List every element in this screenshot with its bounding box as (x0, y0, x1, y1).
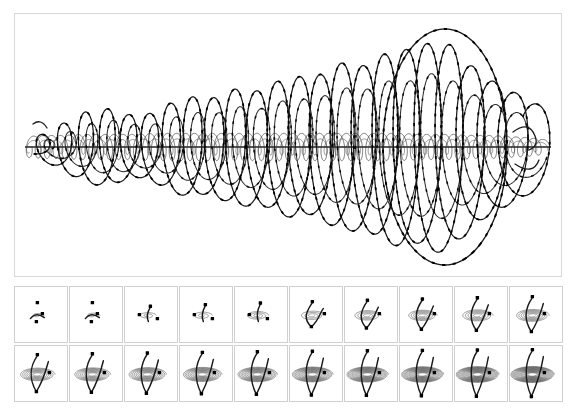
frame-marker (543, 371, 546, 374)
filmstrip-row-2: frame-11frame-12frame-13frame-14frame-15… (14, 345, 563, 402)
filmstrip-frame[interactable]: frame-19 (454, 345, 508, 402)
frame-marker (146, 351, 149, 354)
frame-marker (488, 371, 491, 374)
frame-sparkline (125, 287, 178, 342)
filmstrip-frame[interactable]: frame-17 (344, 345, 398, 402)
frame-sparkline (15, 346, 68, 401)
frame-marker (420, 328, 423, 331)
frame-marker (530, 395, 533, 398)
frame-marker (48, 371, 51, 374)
frame-marker (310, 393, 313, 396)
frame-marker (201, 351, 204, 354)
frame-marker (91, 301, 94, 304)
frame-sparkline (455, 287, 508, 342)
frame-sparkline (235, 346, 288, 401)
frame-sparkline (290, 287, 343, 342)
frame-marker (476, 348, 479, 351)
frame-marker (378, 312, 381, 315)
frame-marker (138, 313, 141, 316)
frame-marker (211, 317, 214, 320)
frame-marker (248, 313, 251, 316)
frame-marker (256, 350, 259, 353)
frame-marker (488, 312, 491, 315)
frame-marker (36, 301, 39, 304)
frame-sparkline (70, 287, 123, 342)
frame-sparkline (510, 287, 563, 342)
frame-sparkline (345, 346, 398, 401)
frame-marker (310, 325, 313, 328)
frame-marker (35, 320, 38, 323)
frame-marker (530, 330, 533, 333)
frame-marker (531, 295, 534, 298)
frame-sparkline (345, 287, 398, 342)
frame-sparkline (235, 287, 288, 342)
frame-marker (145, 392, 148, 395)
frame-marker (365, 394, 368, 397)
frame-marker (158, 371, 161, 374)
frame-marker (476, 296, 479, 299)
frame-marker (35, 390, 38, 393)
filmstrip-frame[interactable]: frame-09 (454, 286, 508, 343)
frame-sparkline (455, 346, 508, 401)
filmstrip-frame[interactable]: frame-12 (69, 345, 123, 402)
filmstrip-frame[interactable]: frame-16 (289, 345, 343, 402)
frame-marker (311, 350, 314, 353)
figure-root: Projected 3D helix: slow large-amplitude… (0, 0, 577, 413)
filmstrip-frame[interactable]: frame-11 (14, 345, 68, 402)
filmstrip-frame[interactable]: frame-03 (124, 286, 178, 343)
frame-marker (90, 320, 93, 323)
frame-marker (156, 317, 159, 320)
frame-marker (311, 300, 314, 303)
frame-sparkline (400, 346, 453, 401)
frame-sparkline (180, 287, 233, 342)
frame-marker (200, 392, 203, 395)
frame-marker (266, 317, 269, 320)
frame-sparkline (125, 346, 178, 401)
frame-marker (41, 312, 44, 315)
frame-marker (149, 305, 152, 308)
frame-marker (91, 352, 94, 355)
frame-marker (433, 312, 436, 315)
frame-sparkline (180, 346, 233, 401)
frame-marker (213, 371, 216, 374)
filmstrip-frame[interactable]: frame-15 (234, 345, 288, 402)
frame-marker (323, 371, 326, 374)
frame-marker (103, 371, 106, 374)
filmstrip-frame[interactable]: frame-01 (14, 286, 68, 343)
frame-marker (475, 395, 478, 398)
frame-marker (378, 371, 381, 374)
time-evolution-filmstrip: frame-01frame-02frame-03frame-04frame-05… (14, 286, 563, 402)
filmstrip-frame[interactable]: frame-14 (179, 345, 233, 402)
filmstrip-frame[interactable]: frame-06 (289, 286, 343, 343)
main-trajectory-panel: Projected 3D helix: slow large-amplitude… (14, 13, 562, 277)
filmstrip-frame[interactable]: frame-18 (399, 345, 453, 402)
filmstrip-frame[interactable]: frame-02 (69, 286, 123, 343)
frame-marker (366, 299, 369, 302)
main-trajectory-plot (15, 14, 561, 276)
frame-marker (543, 312, 546, 315)
filmstrip-frame[interactable]: frame-08 (399, 286, 453, 343)
filmstrip-frame[interactable]: frame-10 (509, 286, 563, 343)
filmstrip-frame[interactable]: frame-05 (234, 286, 288, 343)
frame-marker (193, 313, 196, 316)
frame-marker (255, 393, 258, 396)
filmstrip-frame[interactable]: frame-07 (344, 286, 398, 343)
frame-marker (204, 303, 207, 306)
filmstrip-frame[interactable]: frame-13 (124, 345, 178, 402)
frame-marker (420, 394, 423, 397)
frame-marker (96, 312, 99, 315)
frame-marker (90, 391, 93, 394)
filmstrip-frame[interactable]: frame-20 (509, 345, 563, 402)
frame-marker (268, 371, 271, 374)
frame-marker (366, 349, 369, 352)
frame-marker (36, 353, 39, 356)
frame-marker (433, 371, 436, 374)
frame-sparkline (510, 346, 563, 401)
filmstrip-row-1: frame-01frame-02frame-03frame-04frame-05… (14, 286, 563, 343)
frame-marker (421, 349, 424, 352)
frame-marker (421, 297, 424, 300)
filmstrip-frame[interactable]: frame-04 (179, 286, 233, 343)
frame-marker (259, 301, 262, 304)
frame-marker (475, 329, 478, 332)
frame-sparkline (400, 287, 453, 342)
